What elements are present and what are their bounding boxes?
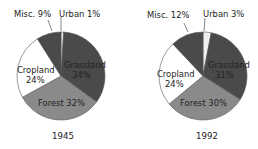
misc-leader-line-1992	[184, 23, 188, 32]
urban-leader-line-1992	[204, 18, 205, 31]
label-urban-1945: Urban 1%	[59, 9, 100, 19]
pie-charts: Misc. 9% Urban 1% Cropland 24% Grassland…	[0, 0, 258, 149]
label-grassland-1945: Grassland	[64, 60, 106, 70]
label-grassland-pct-1945: 34%	[72, 70, 91, 80]
label-grassland-1992: Grassland	[208, 60, 250, 70]
label-forest-1945: Forest 32%	[38, 98, 85, 108]
label-cropland-pct-1992: 24%	[165, 79, 184, 89]
label-grassland-pct-1992: 31%	[215, 70, 234, 80]
label-forest-1992: Forest 30%	[180, 98, 227, 108]
label-cropland-1992: Cropland	[157, 69, 195, 79]
label-misc-1992: Misc. 12%	[147, 10, 190, 20]
misc-leader-line-1945	[48, 20, 52, 31]
label-misc-1945: Misc. 9%	[14, 9, 51, 19]
year-label-1992: 1992	[196, 131, 218, 141]
year-label-1945: 1945	[52, 131, 74, 141]
label-cropland-pct-1945: 24%	[26, 75, 45, 85]
label-urban-1992: Urban 3%	[203, 9, 244, 19]
label-cropland-1945: Cropland	[17, 65, 55, 75]
